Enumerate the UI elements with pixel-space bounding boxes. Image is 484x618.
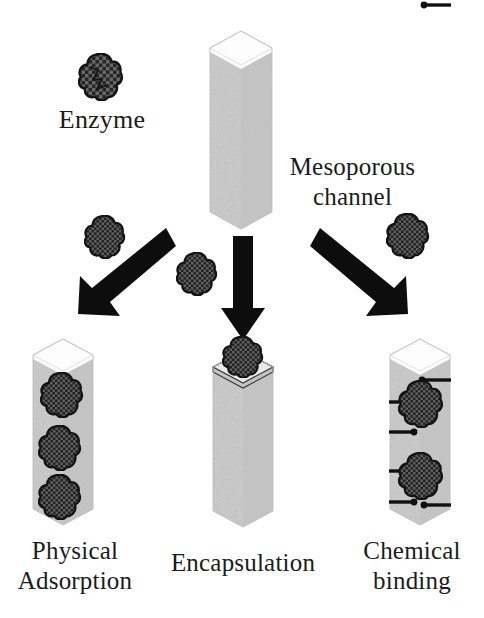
enzyme-molecule-free xyxy=(78,53,124,101)
enzyme-molecule-left-path xyxy=(84,215,126,259)
label-enzyme: Enzyme xyxy=(46,105,158,136)
label-mesoporous-channel: Mesoporous channel xyxy=(275,152,430,211)
enzyme-molecule-adsorbed-2 xyxy=(38,425,82,471)
arrow-to-encapsulation xyxy=(219,236,267,342)
enzyme-molecule-center-path xyxy=(176,252,218,296)
enzyme-molecule-adsorbed-1 xyxy=(40,372,84,418)
enzyme-molecule-adsorbed-3 xyxy=(38,474,82,520)
label-encapsulation: Encapsulation xyxy=(168,548,318,578)
enzyme-molecule-encapsulated xyxy=(222,336,264,378)
mesoporous-channel-column xyxy=(208,30,274,232)
label-chemical-binding: Chemical binding xyxy=(340,536,484,595)
linker-right-2 xyxy=(420,0,452,10)
enzyme-molecule-bound-2 xyxy=(398,452,444,500)
linker-right-3 xyxy=(420,500,452,510)
linker-left-2 xyxy=(388,427,418,437)
enzyme-molecule-bound-1 xyxy=(398,380,444,428)
label-physical-adsorption: Physical Adsorption xyxy=(0,536,150,595)
enzyme-immobilization-diagram: Enzyme Mesoporous channel xyxy=(0,0,484,618)
enzyme-molecule-right-path xyxy=(386,213,430,259)
